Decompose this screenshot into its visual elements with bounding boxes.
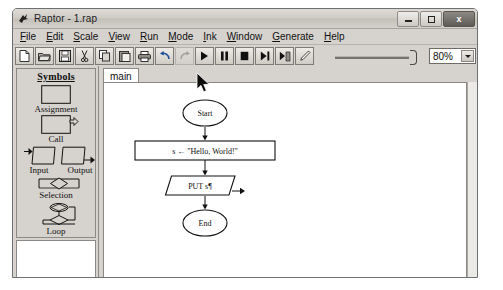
maximize-icon — [428, 16, 435, 23]
pause-button[interactable] — [215, 47, 234, 65]
step-over-button[interactable] — [255, 47, 274, 65]
node-start[interactable]: Start — [183, 100, 227, 126]
undo-button[interactable] — [155, 47, 174, 65]
symbols-pane: Symbols Assignment Call — [13, 66, 99, 277]
menu-ink-label: nk — [206, 31, 217, 42]
node-start-label: Start — [197, 109, 213, 118]
play-run-icon — [200, 51, 209, 61]
node-output[interactable]: PUT s¶ — [166, 176, 246, 195]
node-end-label: End — [199, 219, 212, 228]
save-button[interactable] — [55, 47, 74, 65]
window-body: Symbols Assignment Call — [13, 66, 477, 277]
print-button[interactable] — [135, 47, 154, 65]
symbol-call-label: Call — [17, 135, 95, 144]
print-icon — [138, 51, 151, 62]
pause-icon — [220, 51, 229, 61]
symbol-input-label: Input — [19, 166, 59, 175]
pen-ink-button[interactable] — [295, 47, 314, 65]
output-arrow-icon — [240, 188, 245, 194]
open-folder-icon — [38, 51, 51, 62]
tab-strip-filler — [139, 67, 477, 83]
step-into-button[interactable] — [275, 47, 294, 65]
cut-icon — [80, 50, 89, 62]
new-file-button[interactable] — [15, 47, 34, 65]
arrowhead-3 — [202, 205, 207, 210]
copy-icon — [99, 50, 111, 62]
step-over-icon — [260, 51, 270, 61]
symbol-loop-label: Loop — [17, 227, 95, 236]
tab-main[interactable]: main — [103, 68, 139, 83]
paste-button[interactable] — [115, 47, 134, 65]
speed-slider-thumb[interactable] — [410, 50, 417, 65]
raptor-bird-icon — [17, 12, 30, 25]
vertical-scrollbar[interactable] — [467, 82, 477, 277]
menu-bar: File Edit Scale View Run Mode Ink Window… — [13, 29, 477, 45]
window-controls: x — [397, 11, 475, 27]
window-title: Raptor - 1.rap — [34, 13, 97, 24]
menu-scale-label: cale — [80, 31, 98, 42]
speed-slider[interactable] — [333, 47, 419, 65]
undo-icon — [159, 51, 171, 61]
application-window: Raptor - 1.rap x File Edit Scale View Ru… — [12, 8, 478, 278]
menu-generate-label: enerate — [280, 31, 314, 42]
symbols-pane-empty-area — [16, 240, 96, 277]
menu-view-label: iew — [115, 31, 130, 42]
paste-icon — [119, 50, 131, 62]
open-file-button[interactable] — [35, 47, 54, 65]
copy-button[interactable] — [95, 47, 114, 65]
speed-slider-track[interactable] — [335, 56, 409, 59]
menu-run-label: un — [147, 31, 158, 42]
symbol-selection-label: Selection — [17, 191, 95, 200]
minimize-icon — [405, 20, 412, 22]
zoom-level-value: 80% — [430, 51, 453, 62]
redo-button[interactable] — [175, 47, 194, 65]
symbols-box: Symbols Assignment Call — [16, 68, 96, 238]
caret-shape — [465, 55, 471, 58]
maximize-button[interactable] — [420, 11, 442, 27]
node-assignment[interactable]: s ← "Hello, World!" — [135, 141, 275, 160]
menu-window[interactable]: Window — [222, 30, 268, 44]
node-output-label: PUT s¶ — [188, 182, 212, 191]
menu-view[interactable]: View — [103, 30, 135, 44]
menu-run[interactable]: Run — [135, 30, 163, 44]
node-end[interactable]: End — [183, 210, 227, 236]
menu-file-label: ile — [26, 31, 36, 42]
chevron-down-icon[interactable] — [461, 50, 474, 62]
menu-mode[interactable]: Mode — [163, 30, 198, 44]
pen-ink-icon — [299, 50, 311, 62]
symbols-title: Symbols — [17, 69, 95, 82]
menu-scale[interactable]: Scale — [68, 30, 103, 44]
menu-window-label: indow — [236, 31, 262, 42]
flowchart-canvas[interactable]: Start s ← "Hello, World!" PUT s¶ — [103, 82, 467, 277]
symbol-assignment-label: Assignment — [17, 105, 95, 114]
zoom-level-select[interactable]: 80% — [429, 48, 476, 64]
menu-edit[interactable]: Edit — [41, 30, 68, 44]
menu-mode-label: ode — [177, 31, 194, 42]
step-into-icon — [279, 51, 291, 62]
new-file-icon — [19, 50, 30, 62]
toolbar: 80% — [13, 45, 477, 68]
node-assignment-label: s ← "Hello, World!" — [172, 147, 238, 156]
run-button[interactable] — [195, 47, 214, 65]
title-bar[interactable]: Raptor - 1.rap x — [13, 9, 477, 29]
arrowhead-1 — [202, 136, 207, 141]
save-disk-icon — [59, 50, 71, 62]
stop-button[interactable] — [235, 47, 254, 65]
cut-button[interactable] — [75, 47, 94, 65]
arrowhead-2 — [202, 171, 207, 176]
menu-help[interactable]: Help — [319, 30, 350, 44]
menu-edit-label: dit — [53, 31, 64, 42]
close-button[interactable]: x — [443, 11, 475, 27]
redo-icon — [179, 51, 191, 61]
stop-icon — [240, 51, 249, 61]
menu-generate[interactable]: Generate — [267, 30, 319, 44]
mouse-pointer — [196, 72, 212, 98]
workspace-pane: main — [99, 66, 477, 277]
menu-ink[interactable]: Ink — [198, 30, 221, 44]
screen: Raptor - 1.rap x File Edit Scale View Ru… — [0, 0, 503, 290]
menu-help-label: elp — [331, 31, 344, 42]
tab-strip: main — [99, 66, 477, 83]
minimize-button[interactable] — [397, 11, 419, 27]
menu-file[interactable]: File — [15, 30, 41, 44]
symbol-output-label: Output — [59, 166, 101, 175]
